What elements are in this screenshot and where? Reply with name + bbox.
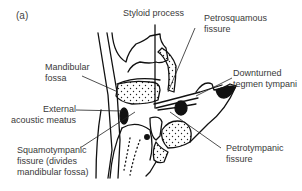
label-external-acoustic-line2: acoustic meatus (11, 115, 76, 126)
label-squamotympanic-line3: mandibular fossa) (17, 167, 89, 178)
label-squamotympanic-line2: fissure (divides (17, 156, 77, 167)
label-squamotympanic-line1: Squamotympanic (17, 145, 87, 156)
label-downturned-tegmen-line2: tegmen tympani (233, 79, 297, 90)
label-petrosquamous-fissure-line2: fissure (204, 24, 231, 35)
anatomy-figure: (a) (0, 0, 302, 191)
label-petrotympanic-line1: Petrotympanic (226, 143, 284, 154)
label-mandibular-fossa-line1: Mandibular (45, 62, 90, 73)
label-petrosquamous-fissure-line1: Petrosquamous (204, 13, 267, 24)
label-downturned-tegmen-line1: Downturned (233, 68, 282, 79)
label-mandibular-fossa-line2: fossa (45, 73, 67, 84)
label-petrotympanic-line2: fissure (226, 154, 253, 165)
label-styloid-process: Styloid process (123, 8, 184, 19)
label-external-acoustic-line1: External (43, 104, 76, 115)
